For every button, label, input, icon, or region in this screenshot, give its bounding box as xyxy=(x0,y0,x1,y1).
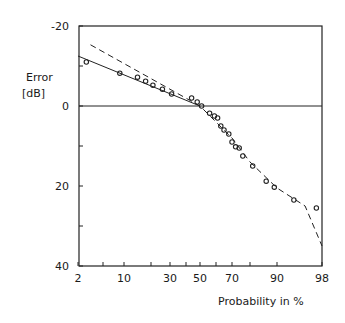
data-point-marker xyxy=(230,140,234,144)
plot-frame xyxy=(79,26,322,266)
data-point-marker xyxy=(219,124,223,128)
x-tick-label: 2 xyxy=(75,272,82,285)
fit-lines xyxy=(78,45,322,246)
data-point-marker xyxy=(264,179,268,183)
x-tick-label: 10 xyxy=(117,272,131,285)
data-points xyxy=(84,60,318,210)
x-axis-title: Probability in % xyxy=(218,295,304,308)
data-point-marker xyxy=(143,79,147,83)
y-axis-title-line2: [dB] xyxy=(22,87,45,100)
x-tick-label: 70 xyxy=(225,272,239,285)
x-tick-label: 50 xyxy=(193,272,207,285)
x-tick-label: 30 xyxy=(163,272,177,285)
axis-ticks xyxy=(78,26,322,266)
data-point-marker xyxy=(84,60,88,64)
solid-fit-line xyxy=(78,56,200,106)
y-tick-label: -20 xyxy=(51,20,69,33)
y-axis-title-line1: Error xyxy=(26,71,53,84)
y-tick-label: 20 xyxy=(55,180,69,193)
y-tick-label: 40 xyxy=(55,260,69,273)
data-point-marker xyxy=(189,96,193,100)
chart-canvas: Error [dB] Probability in % -20 0 20 40 … xyxy=(0,0,345,323)
data-point-marker xyxy=(227,132,231,136)
data-point-marker xyxy=(195,100,199,104)
data-point-marker xyxy=(314,206,318,210)
x-tick-label: 98 xyxy=(315,272,329,285)
data-point-marker xyxy=(241,154,245,158)
data-point-marker xyxy=(207,111,211,115)
plot-border xyxy=(79,26,322,266)
x-tick-label: 90 xyxy=(270,272,284,285)
y-tick-label: 0 xyxy=(62,100,69,113)
data-point-marker xyxy=(222,128,226,132)
data-point-marker xyxy=(135,75,139,79)
